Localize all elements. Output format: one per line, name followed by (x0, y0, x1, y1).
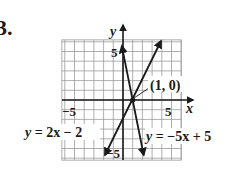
y-tick-pos5: 5 (111, 45, 118, 60)
y-axis-label: y (108, 24, 117, 39)
intersection-label: (1, 0) (150, 78, 181, 94)
equation-left: y = 2x − 2 (23, 125, 82, 140)
linear-system-graph: 3. y x −5 5 5 −5 (1, 0) y = 2x − 2 y = −… (0, 0, 234, 180)
x-tick-pos5: 5 (165, 104, 172, 119)
x-tick-neg5: −5 (62, 104, 76, 119)
equation-right: y = −5x + 5 (144, 129, 211, 144)
x-axis-label: x (185, 101, 193, 116)
problem-number: 3. (0, 15, 13, 40)
